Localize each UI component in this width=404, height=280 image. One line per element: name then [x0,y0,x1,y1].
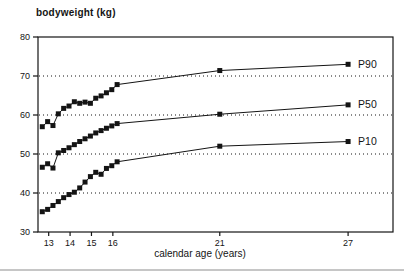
p10-marker [93,170,98,175]
page-rule [0,269,404,271]
p10-marker [56,199,61,204]
p90-marker [93,96,98,101]
p50-marker [45,161,50,166]
p10-marker [50,203,55,208]
p90-marker [217,68,222,73]
p10-marker [115,159,120,164]
p50-marker [83,136,88,141]
p50-marker [99,128,104,133]
p50-marker [104,126,109,131]
p50-marker [115,121,120,126]
p10-marker [77,185,82,190]
p50-marker [72,142,77,147]
p10-marker [104,166,109,171]
y-tick-label: 80 [20,32,30,42]
p50-marker [61,148,66,153]
p90-marker [72,99,77,104]
p50-marker [88,134,93,139]
p50-marker [40,165,45,170]
p90-marker [50,123,55,128]
p50-marker [109,123,114,128]
y-tick-label: 60 [20,110,30,120]
p50-marker [67,145,72,150]
p90-marker [45,119,50,124]
p90-marker [77,101,82,106]
p10-marker [83,180,88,185]
y-tick-label: 30 [20,227,30,237]
p10-marker [99,172,104,177]
x-tick-label: 15 [86,238,96,248]
p90-marker [88,101,93,106]
p90-marker [115,82,120,87]
p10-marker [346,139,351,144]
p50-marker [346,102,351,107]
p10-label: P10 [358,135,377,147]
p90-marker [56,111,61,116]
p90-marker [99,93,104,98]
p90-marker [346,62,351,67]
p10-marker [45,207,50,212]
x-tick-label: 13 [44,238,54,248]
y-tick-label: 50 [20,149,30,159]
chart-plot-area: 807060504030131415162127P90P50P10 [0,0,404,280]
p10-marker [61,195,66,200]
p90-line [42,64,348,126]
p10-marker [217,144,222,149]
p50-marker [56,150,61,155]
y-tick-label: 70 [20,71,30,81]
p90-marker [61,106,66,111]
p10-marker [67,192,72,197]
p50-marker [93,130,98,135]
p90-label: P90 [358,58,377,70]
x-axis-title: calendar age (years) [154,248,246,259]
p10-marker [109,163,114,168]
p90-marker [67,104,72,109]
x-tick-label: 16 [108,238,118,248]
p50-marker [77,139,82,144]
x-tick-label: 27 [343,238,353,248]
p10-marker [72,190,77,195]
p90-marker [40,124,45,129]
x-tick-label: 14 [65,238,75,248]
y-tick-label: 40 [20,188,30,198]
p90-marker [83,100,88,105]
p10-marker [40,209,45,214]
p50-marker [50,166,55,171]
p10-marker [88,174,93,179]
p90-marker [109,87,114,92]
growth-chart-figure: bodyweight (kg) 807060504030131415162127… [0,0,404,280]
p90-marker [104,90,109,95]
x-tick-label: 21 [215,238,225,248]
p50-label: P50 [358,98,377,110]
p50-marker [217,112,222,117]
